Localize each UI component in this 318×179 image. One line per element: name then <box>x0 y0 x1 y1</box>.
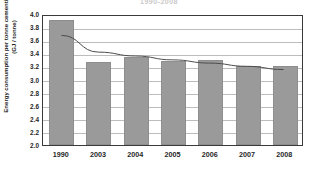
bar <box>86 62 111 145</box>
y-axis-tick-mark <box>42 107 43 108</box>
y-axis-tick-label: 2.2 <box>20 130 39 136</box>
y-axis-tick-label: 3.6 <box>20 38 39 44</box>
y-axis-tick-label: 2.6 <box>20 103 39 109</box>
y-axis-tick-label: 3.2 <box>20 64 39 70</box>
x-axis-tick-mark <box>285 145 286 146</box>
bar <box>49 20 74 145</box>
gridline <box>43 42 302 43</box>
y-axis-tick-label: 3.0 <box>20 77 39 83</box>
x-axis-tick-mark <box>99 145 100 146</box>
y-axis-tick-mark <box>42 94 43 95</box>
y-axis-tick-mark <box>42 133 43 134</box>
bar <box>198 60 223 145</box>
y-axis-tick-mark <box>42 42 43 43</box>
x-axis-tick-label: 1990 <box>53 150 69 160</box>
y-axis-tick-mark <box>42 81 43 82</box>
y-axis-tick-label: 3.8 <box>20 25 39 31</box>
bar <box>273 66 298 145</box>
y-axis-tick-mark <box>42 120 43 121</box>
chart-title: 1990-2008 <box>0 0 318 6</box>
x-axis-tick-label: 2008 <box>276 150 292 160</box>
y-axis-tick-label: 4.0 <box>20 12 39 18</box>
y-axis-tick-label: 2.8 <box>20 90 39 96</box>
y-axis-tick-mark <box>42 68 43 69</box>
gridline <box>43 29 302 30</box>
y-axis-tick-mark <box>42 16 43 17</box>
x-axis-tick-mark <box>62 145 63 146</box>
y-axis-tick-label: 2.0 <box>20 143 39 149</box>
x-axis-tick-labels: 1990200320042005200620072008 <box>42 150 303 164</box>
x-axis-tick-label: 2007 <box>239 150 255 160</box>
y-axis-tick-label: 2.4 <box>20 117 39 123</box>
y-axis-tick-labels: 2.02.22.42.62.83.03.23.43.63.84.0 <box>20 15 39 146</box>
x-axis-tick-label: 2006 <box>202 150 218 160</box>
x-axis-tick-label: 2004 <box>127 150 143 160</box>
x-axis-tick-label: 2005 <box>165 150 181 160</box>
bar <box>236 66 261 145</box>
bar <box>124 57 149 145</box>
x-axis-tick-label: 2003 <box>90 150 106 160</box>
x-axis-tick-mark <box>136 145 137 146</box>
y-axis-tick-label: 3.4 <box>20 51 39 57</box>
gridline <box>43 55 302 56</box>
y-axis-tick-mark <box>42 29 43 30</box>
bar <box>161 61 186 145</box>
x-axis-tick-mark <box>174 145 175 146</box>
plot-area <box>42 15 303 146</box>
x-axis-tick-mark <box>248 145 249 146</box>
chart-container: 1990-2008 Energy consumption per tonne c… <box>0 0 318 179</box>
y-axis-tick-mark <box>42 55 43 56</box>
x-axis-tick-mark <box>211 145 212 146</box>
